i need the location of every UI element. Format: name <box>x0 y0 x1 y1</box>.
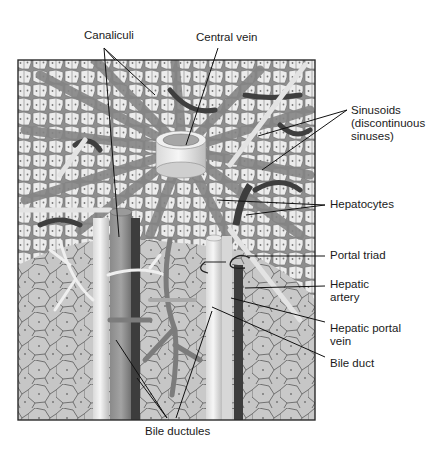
label-hepatocytes: Hepatocytes <box>330 198 394 211</box>
liver-lobule-figure: Canaliculi Central vein Sinusoids (disco… <box>0 0 436 449</box>
label-hepatic-portal-vein: Hepatic portal vein <box>330 322 420 348</box>
label-sinusoids: Sinusoids (discontinuous sinuses) <box>351 104 431 143</box>
illustration <box>0 0 436 449</box>
label-bile-duct: Bile duct <box>330 357 374 370</box>
illustration-body <box>18 60 315 423</box>
label-bile-ductules: Bile ductules <box>145 425 210 438</box>
central-vein <box>156 131 206 178</box>
label-hepatic-artery: Hepatic artery <box>330 278 390 304</box>
label-central-vein: Central vein <box>196 31 257 44</box>
label-portal-triad: Portal triad <box>330 249 386 262</box>
label-canaliculi: Canaliculi <box>84 29 134 42</box>
